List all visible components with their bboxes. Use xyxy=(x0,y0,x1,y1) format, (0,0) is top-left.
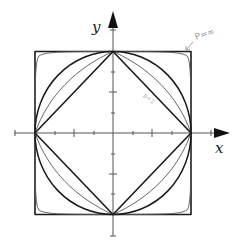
svg-text:P=∞: P=∞ xyxy=(194,26,217,42)
y-axis-label: y xyxy=(91,18,101,36)
axes xyxy=(14,11,230,236)
p-norm-unit-ball-diagram: y x P=∞ p=1 xyxy=(0,0,239,244)
x-axis-label: x xyxy=(215,139,224,157)
x-axis-arrow-icon xyxy=(214,128,230,138)
annotation-p-infinity: P=∞ xyxy=(186,26,216,50)
y-axis-arrow-icon xyxy=(108,11,118,28)
annotation-p-one: p=1 xyxy=(142,91,157,105)
